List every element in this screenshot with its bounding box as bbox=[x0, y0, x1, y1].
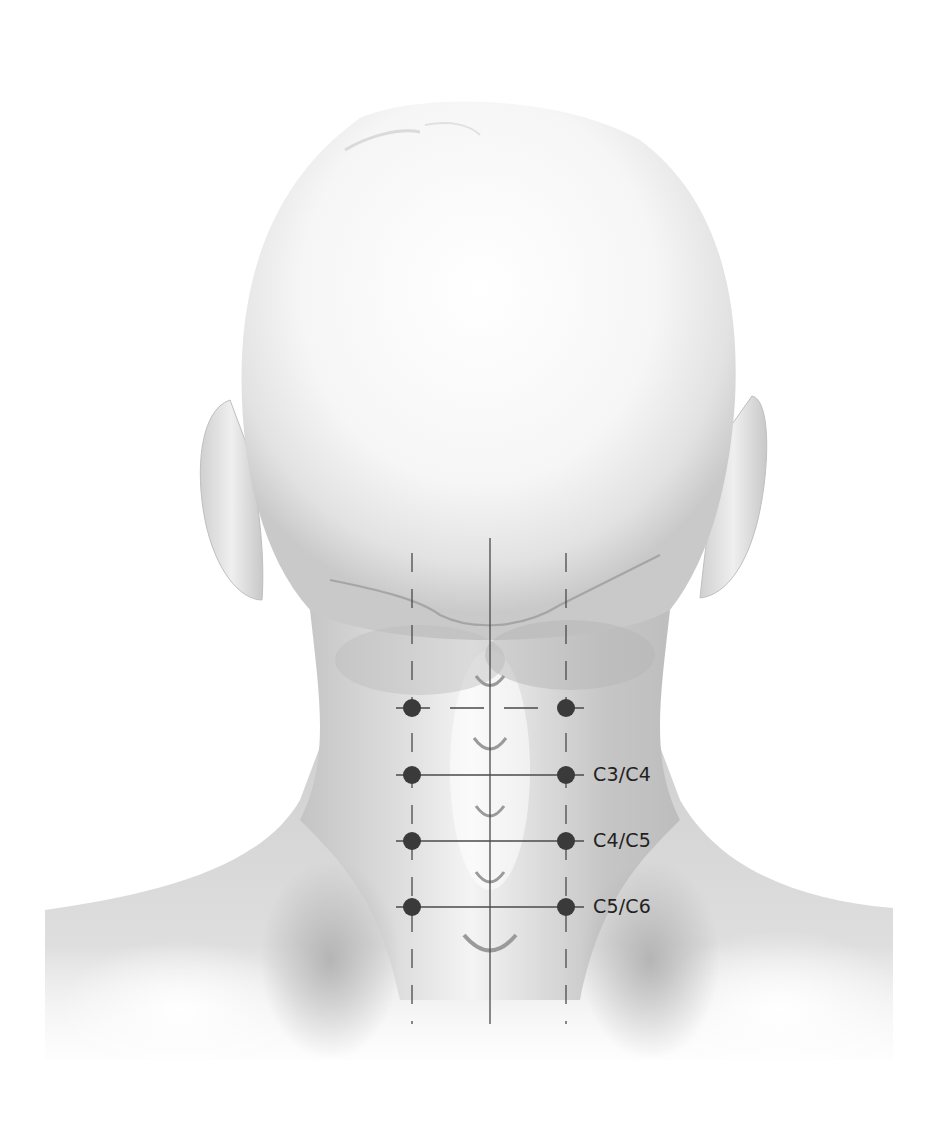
marker-dot bbox=[557, 766, 575, 784]
marker-dot bbox=[403, 766, 421, 784]
head bbox=[242, 102, 736, 695]
marker-dot bbox=[557, 898, 575, 916]
level-label-c5-c6: C5/C6 bbox=[593, 897, 651, 916]
marker-dot bbox=[557, 699, 575, 717]
level-label-c3-c4: C3/C4 bbox=[593, 765, 651, 784]
anatomy-illustration bbox=[0, 0, 940, 1134]
level-label-c4-c5: C4/C5 bbox=[593, 831, 651, 850]
marker-dot bbox=[403, 699, 421, 717]
marker-dot bbox=[557, 832, 575, 850]
marker-dot bbox=[403, 898, 421, 916]
marker-dot bbox=[403, 832, 421, 850]
neck-injection-diagram: C3/C4 C4/C5 C5/C6 bbox=[0, 0, 940, 1134]
